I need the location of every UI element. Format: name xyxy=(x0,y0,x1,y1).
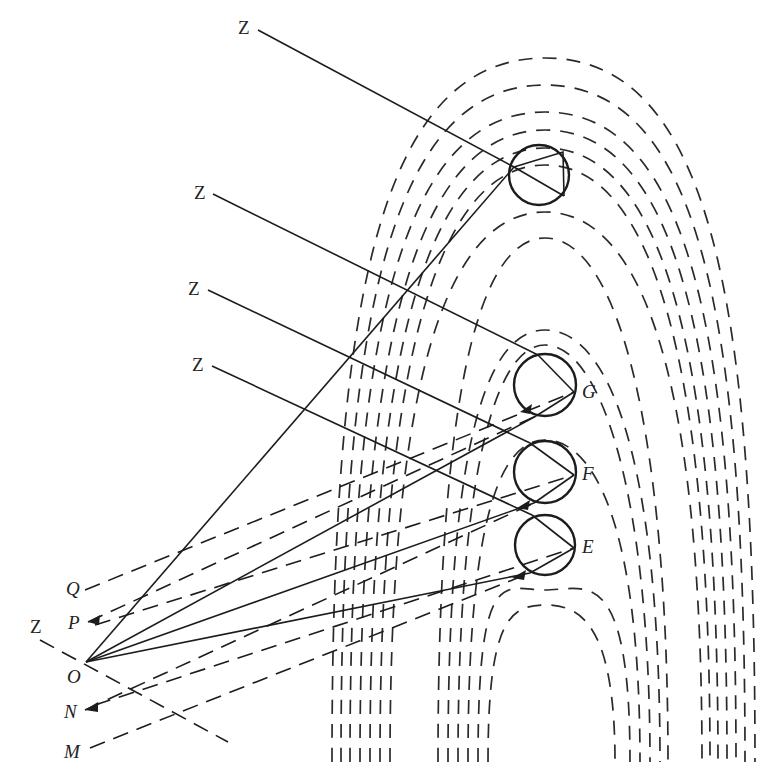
body-top xyxy=(509,145,569,205)
dashed-ray-n-2 xyxy=(95,548,574,705)
dashed-ray-m xyxy=(90,573,530,748)
body-e xyxy=(515,515,575,575)
ray-o-to-f xyxy=(86,503,534,662)
z-line-top xyxy=(258,30,514,167)
labels: Z Z Z Z Z G F E Q P O N M xyxy=(30,17,596,762)
z-line-3-in-circle xyxy=(530,443,574,475)
label-f: F xyxy=(581,463,594,484)
wavefront-arc-4 xyxy=(360,130,727,762)
label-p: P xyxy=(67,612,80,633)
wavefront-arc-13 xyxy=(488,605,615,762)
wavefront-arcs xyxy=(332,58,755,762)
dashed-ray-p-2 xyxy=(95,475,574,625)
triangle-top xyxy=(514,152,564,196)
wavefront-arc-7 xyxy=(390,212,702,762)
circle-e xyxy=(515,515,575,575)
z-line-4-in-circle xyxy=(532,515,574,548)
wavefront-arc-1 xyxy=(332,58,755,762)
wavefront-arc-8 xyxy=(438,238,668,762)
wavefront-arc-2 xyxy=(341,85,745,762)
label-z-3: Z xyxy=(188,278,200,299)
wavefront-arc-12 xyxy=(478,588,630,762)
dashed-rays xyxy=(40,392,574,748)
label-z-2: Z xyxy=(194,182,206,203)
label-m: M xyxy=(63,741,81,762)
circle-top xyxy=(509,145,569,205)
z-line-2-in-circle xyxy=(538,355,574,392)
label-g: G xyxy=(582,381,596,402)
ray-o-to-e xyxy=(86,573,530,662)
arrow-n-icon xyxy=(85,702,98,712)
dashed-ray-q xyxy=(85,392,574,590)
wavefront-arc-5 xyxy=(370,148,718,762)
label-e: E xyxy=(581,536,594,557)
wavefront-arc-9 xyxy=(448,330,660,762)
label-z-4: Z xyxy=(192,354,204,375)
circle-f xyxy=(514,441,576,503)
label-z-top: Z xyxy=(238,17,250,38)
arrow-p-icon xyxy=(88,615,100,625)
z-lines xyxy=(208,30,574,548)
wavefront-arc-10 xyxy=(458,345,650,762)
label-o: O xyxy=(67,666,81,687)
label-n: N xyxy=(63,701,78,722)
z-line-3 xyxy=(208,290,530,443)
dashed-ray-p xyxy=(88,416,536,622)
label-z-left: Z xyxy=(30,616,42,637)
ray-o-to-top xyxy=(86,167,514,662)
z-line-top-in-circle xyxy=(514,167,564,196)
chord-f xyxy=(534,475,574,503)
optics-diagram: Z Z Z Z Z G F E Q P O N M xyxy=(0,0,781,783)
z-line-2 xyxy=(213,194,538,355)
label-q: Q xyxy=(66,578,80,599)
dashed-z-line-left xyxy=(40,640,228,742)
body-f xyxy=(514,441,576,503)
wavefront-arc-3 xyxy=(350,112,736,762)
